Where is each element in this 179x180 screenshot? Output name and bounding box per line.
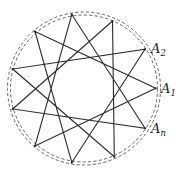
vertex-10	[144, 127, 146, 129]
label-A2: A2	[150, 41, 166, 58]
star-polygon-diagram: A2A1An	[0, 0, 179, 180]
vertex-3	[71, 13, 73, 15]
vertex-1	[144, 48, 146, 50]
label-An: An	[150, 121, 166, 138]
vertex-6	[12, 108, 14, 110]
label-A1: A1	[160, 81, 176, 98]
vertex-9	[113, 156, 115, 158]
dashed-circle-2	[8, 12, 161, 165]
vertex-4	[34, 30, 36, 32]
dashed-circles	[8, 12, 161, 165]
vertex-7	[34, 145, 36, 147]
vertex-8	[71, 161, 73, 163]
dashed-circle-1	[11, 15, 158, 162]
vertex-0	[155, 87, 157, 89]
star-edge-path	[13, 15, 156, 163]
vertex-5	[12, 68, 14, 70]
star-polygon-edges	[13, 15, 156, 163]
vertex-2	[111, 20, 113, 22]
